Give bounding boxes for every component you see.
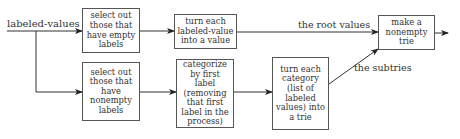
turn-into-trie-box: turn each category (list of labeled valu… xyxy=(272,57,329,130)
select-nonempty-labels-box: select out those that have nonempty labe… xyxy=(82,62,140,121)
turn-into-value-box: turn each labeled-value into a value xyxy=(174,14,237,49)
make-nonempty-trie-box: make a nonempty trie xyxy=(378,15,435,50)
root-values-label: the root values xyxy=(298,19,370,30)
subtries-label: the subtries xyxy=(354,62,412,73)
input-label: labeled-values xyxy=(7,18,80,29)
select-empty-labels-box: select out those that have empty labels xyxy=(82,8,140,53)
categorize-box: categorize by first label (removing that… xyxy=(176,59,234,128)
